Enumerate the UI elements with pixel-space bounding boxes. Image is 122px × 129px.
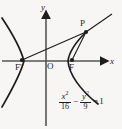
x-exponent: 2 — [66, 90, 69, 96]
right-focus-label: F — [69, 63, 74, 72]
x-term-fraction: x2 16 — [59, 90, 71, 112]
y-term-denominator: 9 — [82, 103, 90, 111]
minus-operator: − — [73, 96, 78, 106]
equals-sign: = — [93, 96, 98, 106]
y-axis-label: y — [41, 3, 45, 12]
ray-beyond-p — [86, 14, 112, 32]
y-exponent: 2 — [86, 90, 89, 96]
equation-result: 1 — [99, 96, 104, 106]
point-p-label: P — [80, 19, 85, 28]
y-term-fraction: y2 9 — [80, 90, 91, 112]
left-focus-label: F' — [15, 63, 22, 72]
hyperbola-figure: y x O F' F P x2 16 − y2 9 = 1 — [0, 0, 122, 129]
bottom-scan-artifact — [0, 122, 122, 129]
origin-label: O — [47, 62, 54, 71]
x-axis-label: x — [110, 57, 114, 66]
segment-leftfocus-to-p — [22, 32, 86, 60]
hyperbola-equation: x2 16 − y2 9 = 1 — [58, 90, 104, 112]
x-term-numerator: x2 — [60, 90, 71, 101]
point-p-dot — [84, 30, 88, 34]
x-term-denominator: 16 — [59, 103, 71, 111]
y-term-numerator: y2 — [80, 90, 91, 101]
